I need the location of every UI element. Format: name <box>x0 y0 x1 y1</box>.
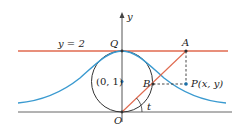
label-line-eq: y = 2 <box>57 38 85 49</box>
point-A <box>184 49 187 52</box>
point-B <box>152 83 155 86</box>
label-O: O <box>114 115 122 126</box>
point-O <box>121 111 124 114</box>
witch-of-agnesi-diagram: y y = 2 Q A P(x, y) B (0, 1) O t <box>0 0 240 135</box>
ray-OA <box>122 51 186 112</box>
label-A: A <box>181 37 189 48</box>
label-center: (0, 1) <box>96 76 123 87</box>
point-Q <box>121 50 124 53</box>
y-axis-arrow-icon <box>120 12 125 18</box>
label-Q: Q <box>110 38 118 49</box>
label-B: B <box>142 78 150 89</box>
label-y-axis: y <box>126 11 133 22</box>
angle-t-arc <box>137 98 143 112</box>
label-P: P(x, y) <box>190 78 223 89</box>
point-P <box>184 82 188 86</box>
label-t: t <box>147 101 152 112</box>
